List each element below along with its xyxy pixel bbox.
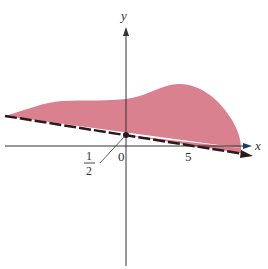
y-axis-arrow-icon: [123, 27, 129, 36]
boundary-arrow-icon: [240, 150, 253, 158]
graph-figure: y x 0 5 1 2: [0, 0, 268, 269]
tick-label-five: 5: [185, 149, 192, 164]
tick-label-origin: 0: [118, 149, 125, 164]
y-axis-label: y: [119, 8, 127, 23]
x-axis-label: x: [254, 138, 261, 153]
fraction-denominator: 2: [86, 164, 92, 178]
x-axis-arrow-icon: [243, 143, 252, 149]
fraction-numerator: 1: [86, 149, 92, 163]
